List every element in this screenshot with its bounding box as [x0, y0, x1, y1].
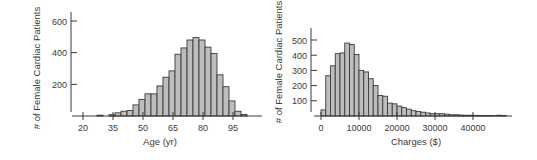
- histogram-bar: [229, 101, 235, 116]
- histogram-bar: [359, 70, 364, 116]
- histogram-bar: [373, 86, 378, 116]
- y-tick-label: 500: [292, 36, 307, 46]
- histogram-bar: [217, 75, 223, 116]
- histogram-bar: [169, 71, 175, 116]
- x-tick-label: 65: [168, 123, 178, 133]
- histogram-bar: [345, 43, 350, 116]
- histogram-bar: [416, 111, 421, 116]
- y-tick-label: 200: [52, 80, 67, 90]
- histogram-bar: [157, 86, 163, 116]
- x-tick-label: 80: [198, 123, 208, 133]
- histogram-bar: [350, 45, 355, 116]
- x-tick-label: 35: [108, 123, 118, 133]
- y-tick-label: 400: [292, 51, 307, 61]
- histogram-bar: [175, 54, 181, 116]
- histogram-bar: [407, 109, 412, 116]
- histogram-bar: [199, 40, 205, 116]
- histogram-bar: [145, 94, 151, 116]
- x-tick-label: 95: [228, 123, 238, 133]
- age-y-ticks: 200400600: [52, 17, 77, 90]
- histogram-bar: [181, 48, 187, 116]
- histogram-bar: [326, 76, 331, 116]
- charges-y-ticks: 100200300400500: [292, 36, 317, 107]
- histogram-bar: [378, 95, 383, 116]
- histogram-bar: [383, 96, 388, 116]
- age-histogram: 200400600 203550658095 Age (yr) # of Fem…: [31, 7, 262, 147]
- y-tick-label: 400: [52, 48, 67, 58]
- histogram-bar: [163, 77, 169, 116]
- histogram-bar: [331, 66, 336, 116]
- histogram-bar: [340, 53, 345, 116]
- x-tick-label: 50: [138, 123, 148, 133]
- age-y-axis-title: # of Female Cardiac Patients: [31, 7, 42, 130]
- histogram-bar: [205, 47, 211, 116]
- histogram-bar: [235, 111, 241, 116]
- histogram-bar: [369, 79, 374, 116]
- histogram-figure: 200400600 203550658095 Age (yr) # of Fem…: [0, 0, 537, 160]
- y-tick-label: 100: [292, 96, 307, 106]
- x-tick-label: 20000: [384, 123, 409, 133]
- histogram-bar: [321, 110, 326, 116]
- age-x-axis-title: Age (yr): [143, 136, 177, 147]
- histogram-bar: [121, 111, 127, 116]
- histogram-bar: [127, 110, 133, 116]
- histogram-bar: [139, 99, 145, 116]
- histogram-bar: [151, 94, 157, 116]
- histogram-bar: [421, 112, 426, 116]
- histogram-bar: [187, 40, 193, 116]
- histogram-bar: [193, 38, 199, 116]
- x-tick-label: 30000: [422, 123, 447, 133]
- charges-histogram: 100200300400500 010000200003000040000 Ch…: [273, 1, 512, 147]
- x-tick-label: 0: [318, 123, 323, 133]
- histogram-bar: [335, 54, 340, 116]
- charges-x-axis-title: Charges ($): [391, 136, 441, 147]
- x-tick-label: 40000: [460, 123, 485, 133]
- y-tick-label: 200: [292, 81, 307, 91]
- histogram-bar: [223, 87, 229, 116]
- histogram-bar: [364, 72, 369, 116]
- x-tick-label: 20: [78, 123, 88, 133]
- charges-y-axis-title: # of Female Cardiac Patients: [273, 1, 284, 124]
- charges-histogram-bars: [321, 43, 506, 116]
- histogram-bar: [133, 105, 139, 116]
- histogram-bar: [211, 53, 217, 116]
- y-tick-label: 300: [292, 66, 307, 76]
- x-tick-label: 10000: [346, 123, 371, 133]
- histogram-bar: [397, 106, 402, 116]
- histogram-bar: [392, 104, 397, 116]
- histogram-bar: [354, 54, 359, 116]
- histogram-bar: [411, 111, 416, 116]
- age-histogram-bars: [97, 38, 247, 116]
- y-tick-label: 600: [52, 17, 67, 27]
- histogram-bar: [402, 108, 407, 116]
- histogram-bar: [388, 103, 393, 116]
